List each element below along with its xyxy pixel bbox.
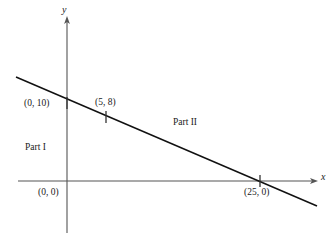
- region-label-part-one: Part I: [25, 143, 46, 153]
- x-axis-label: x: [321, 172, 325, 182]
- point-label-five-eight: (5, 8): [95, 98, 116, 108]
- y-axis-label: y: [62, 5, 66, 15]
- point-label-origin: (0, 0): [38, 188, 59, 198]
- graph-figure: y x (0, 10) (5, 8) (0, 0) (25, 0) Part I…: [0, 0, 336, 246]
- region-label-part-two: Part II: [173, 118, 197, 128]
- point-label-x-intercept: (25, 0): [244, 188, 269, 198]
- point-label-y-intercept: (0, 10): [24, 99, 49, 109]
- plotted-line: [16, 77, 317, 206]
- coordinate-plane-svg: [0, 0, 336, 246]
